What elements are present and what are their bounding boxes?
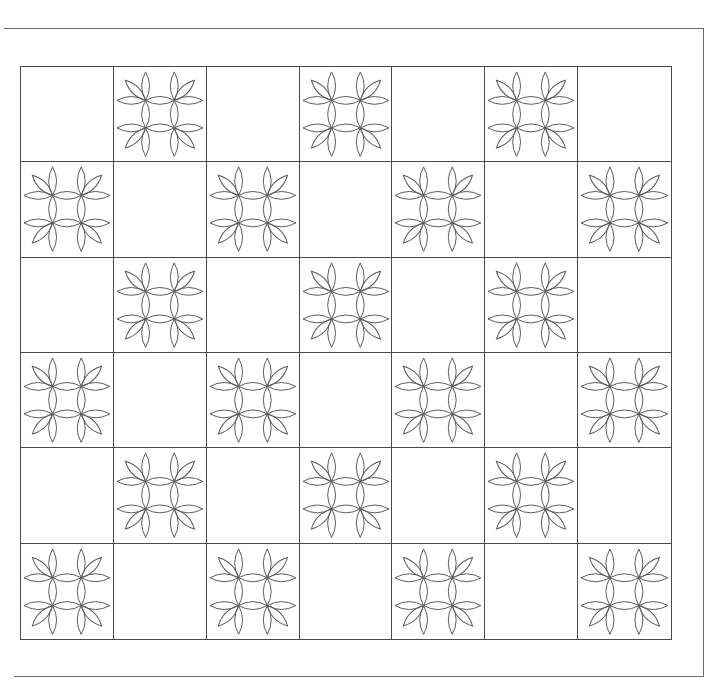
quilt-grid bbox=[20, 66, 672, 640]
quilt-block-plain bbox=[21, 67, 114, 162]
quilt-block-motif bbox=[21, 353, 114, 448]
flower-petal-motif-icon bbox=[578, 544, 671, 639]
quilt-block-motif bbox=[578, 162, 671, 257]
quilt-block-plain bbox=[207, 258, 300, 353]
quilt-block-motif bbox=[300, 258, 393, 353]
quilt-block-plain bbox=[207, 448, 300, 543]
quilt-block-motif bbox=[300, 67, 393, 162]
flower-petal-motif-icon bbox=[578, 353, 671, 447]
quilt-block-plain bbox=[207, 67, 300, 162]
flower-petal-motif-icon bbox=[21, 162, 113, 256]
quilt-block-motif bbox=[114, 448, 207, 543]
quilt-block-plain bbox=[485, 162, 578, 257]
quilt-block-motif bbox=[207, 544, 300, 639]
quilt-block-motif bbox=[392, 353, 485, 448]
quilt-block-plain bbox=[392, 448, 485, 543]
flower-petal-motif-icon bbox=[392, 544, 484, 639]
flower-petal-motif-icon bbox=[392, 162, 484, 256]
outer-frame-top-border bbox=[4, 28, 704, 29]
quilt-block-motif bbox=[207, 353, 300, 448]
quilt-block-plain bbox=[300, 162, 393, 257]
quilt-block-motif bbox=[300, 448, 393, 543]
quilt-block-plain bbox=[485, 544, 578, 639]
quilt-block-plain bbox=[114, 162, 207, 257]
quilt-block-motif bbox=[578, 353, 671, 448]
flower-petal-motif-icon bbox=[114, 258, 206, 352]
quilt-block-plain bbox=[300, 544, 393, 639]
quilt-block-plain bbox=[578, 258, 671, 353]
quilt-block-plain bbox=[114, 544, 207, 639]
outer-frame-bottom-border bbox=[14, 676, 704, 677]
outer-frame-right-border bbox=[703, 28, 704, 676]
flower-petal-motif-icon bbox=[207, 353, 299, 447]
flower-petal-motif-icon bbox=[485, 67, 577, 161]
quilt-block-motif bbox=[485, 448, 578, 543]
flower-petal-motif-icon bbox=[485, 448, 577, 542]
quilt-block-motif bbox=[207, 162, 300, 257]
quilt-block-plain bbox=[392, 67, 485, 162]
quilt-block-motif bbox=[392, 162, 485, 257]
quilt-block-plain bbox=[578, 67, 671, 162]
flower-petal-motif-icon bbox=[300, 258, 392, 352]
flower-petal-motif-icon bbox=[21, 544, 113, 639]
quilt-block-motif bbox=[21, 544, 114, 639]
quilt-block-plain bbox=[300, 353, 393, 448]
quilt-block-motif bbox=[485, 258, 578, 353]
quilt-block-plain bbox=[578, 448, 671, 543]
flower-petal-motif-icon bbox=[300, 448, 392, 542]
quilt-block-motif bbox=[21, 162, 114, 257]
flower-petal-motif-icon bbox=[392, 353, 484, 447]
quilt-block-motif bbox=[578, 544, 671, 639]
quilt-block-motif bbox=[485, 67, 578, 162]
quilt-block-plain bbox=[485, 353, 578, 448]
quilt-block-plain bbox=[392, 258, 485, 353]
quilt-block-plain bbox=[114, 353, 207, 448]
quilt-block-plain bbox=[21, 448, 114, 543]
flower-petal-motif-icon bbox=[207, 162, 299, 256]
quilt-block-motif bbox=[114, 258, 207, 353]
flower-petal-motif-icon bbox=[578, 162, 671, 256]
flower-petal-motif-icon bbox=[21, 353, 113, 447]
flower-petal-motif-icon bbox=[114, 67, 206, 161]
flower-petal-motif-icon bbox=[300, 67, 392, 161]
quilt-block-plain bbox=[21, 258, 114, 353]
flower-petal-motif-icon bbox=[114, 448, 206, 542]
quilt-block-motif bbox=[114, 67, 207, 162]
quilt-block-motif bbox=[392, 544, 485, 639]
flower-petal-motif-icon bbox=[485, 258, 577, 352]
flower-petal-motif-icon bbox=[207, 544, 299, 639]
